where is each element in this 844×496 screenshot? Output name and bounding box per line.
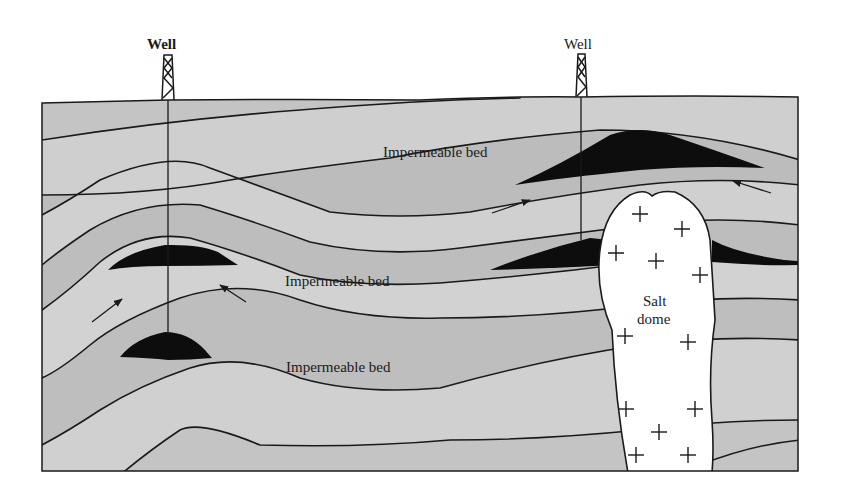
well-label-left: Well <box>147 36 176 52</box>
salt-dome-label-line2: dome <box>637 311 671 327</box>
geologic-cross-section: Well Well Impermeable bed Impermeable be… <box>0 0 844 496</box>
derrick-icon-left <box>162 55 174 100</box>
well-label-right: Well <box>564 36 592 52</box>
derrick-icon-right <box>576 54 587 97</box>
impermeable-bed-label-middle: Impermeable bed <box>285 273 390 289</box>
impermeable-bed-label-top: Impermeable bed <box>383 144 488 160</box>
salt-dome-label-line1: Salt <box>643 293 667 309</box>
impermeable-bed-label-bottom: Impermeable bed <box>286 359 391 375</box>
